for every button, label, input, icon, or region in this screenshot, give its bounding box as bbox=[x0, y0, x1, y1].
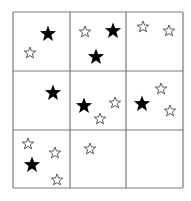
filled-star-icon bbox=[40, 26, 56, 41]
filled-star-icon bbox=[76, 98, 92, 113]
outline-star-icon bbox=[164, 105, 175, 116]
outline-star-icon bbox=[79, 26, 90, 37]
filled-star-icon bbox=[134, 96, 150, 111]
grid-cell-r1-c0 bbox=[45, 85, 61, 100]
outline-star-icon bbox=[22, 138, 33, 149]
grid-cell-r1-c2 bbox=[134, 83, 176, 116]
outline-star-icon bbox=[137, 21, 148, 32]
outline-star-icon bbox=[84, 143, 95, 154]
outline-star-icon bbox=[163, 25, 174, 36]
outline-star-icon bbox=[24, 47, 35, 58]
grid-cell-r0-c0 bbox=[24, 26, 56, 58]
filled-star-icon bbox=[88, 49, 104, 64]
outline-star-icon bbox=[109, 97, 120, 108]
grid-cell-r2-c0 bbox=[22, 138, 62, 185]
outline-star-icon bbox=[49, 147, 60, 158]
outline-star-icon bbox=[94, 113, 105, 124]
outline-star-icon bbox=[51, 174, 62, 185]
grid-cell-r0-c2 bbox=[137, 21, 174, 36]
grid-cells bbox=[22, 21, 175, 185]
star-grid-diagram bbox=[0, 0, 191, 201]
filled-star-icon bbox=[24, 157, 40, 172]
filled-star-icon bbox=[45, 85, 61, 100]
grid-lines bbox=[13, 12, 183, 188]
grid-cell-r1-c1 bbox=[76, 97, 121, 124]
grid-cell-r0-c1 bbox=[79, 23, 121, 64]
grid-cell-r2-c1 bbox=[84, 143, 95, 154]
outline-star-icon bbox=[155, 83, 166, 94]
filled-star-icon bbox=[105, 23, 121, 38]
